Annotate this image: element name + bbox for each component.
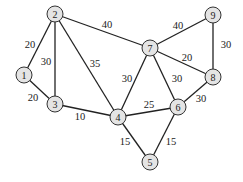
node-2: 2 (47, 6, 63, 22)
node-label: 5 (148, 157, 153, 168)
node-4: 4 (110, 109, 126, 125)
edge-3-4 (55, 104, 118, 117)
edge-weight-label: 20 (28, 92, 39, 103)
edge-weight-label: 30 (41, 56, 52, 67)
node-8: 8 (205, 69, 221, 85)
node-label: 1 (22, 70, 27, 81)
edge-weight-label: 35 (90, 58, 101, 69)
node-9: 9 (205, 7, 221, 23)
edge-weight-label: 15 (120, 136, 131, 147)
node-7: 7 (142, 40, 158, 56)
edge-weight-label: 40 (102, 19, 113, 30)
weighted-graph: 202030354010302515153030204030 123456789 (0, 0, 243, 182)
edge-5-6 (150, 107, 178, 162)
edges-layer (24, 14, 213, 162)
node-label: 3 (53, 99, 58, 110)
edge-weight-label: 30 (221, 39, 232, 50)
node-5: 5 (142, 154, 158, 170)
edge-weight-label: 15 (166, 136, 177, 147)
node-1: 1 (16, 67, 32, 83)
node-label: 6 (176, 102, 181, 113)
weight-labels-layer: 202030354010302515153030204030 (25, 19, 232, 147)
edge-weight-label: 20 (182, 52, 193, 63)
node-3: 3 (47, 96, 63, 112)
node-label: 7 (148, 43, 153, 54)
node-label: 2 (53, 9, 58, 20)
edge-weight-label: 30 (172, 73, 183, 84)
edge-weight-label: 30 (122, 73, 133, 84)
edge-weight-label: 20 (25, 39, 36, 50)
edge-weight-label: 30 (196, 93, 207, 104)
node-label: 8 (211, 72, 216, 83)
edge-weight-label: 25 (144, 99, 155, 110)
edge-weight-label: 10 (75, 111, 86, 122)
node-label: 9 (211, 10, 216, 21)
edge-weight-label: 40 (173, 20, 184, 31)
node-6: 6 (170, 99, 186, 115)
node-label: 4 (116, 112, 121, 123)
